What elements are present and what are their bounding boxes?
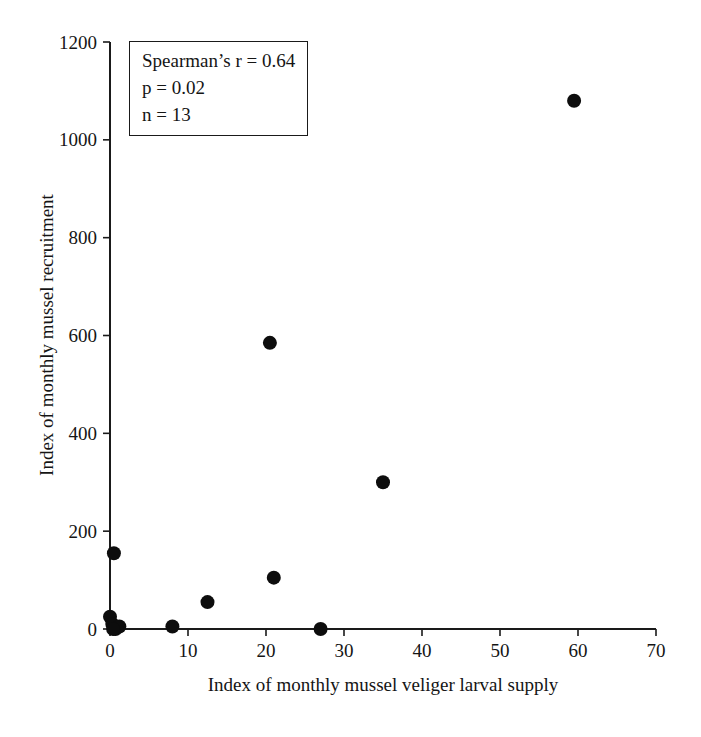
stats-annotation-box: Spearman’s r = 0.64 p = 0.02 n = 13 — [129, 41, 308, 136]
data-point — [376, 475, 390, 489]
annotation-line-n: n = 13 — [142, 101, 295, 128]
x-tick-label-20: 20 — [257, 640, 276, 661]
y-tick-label-0: 0 — [88, 619, 98, 640]
scatter-figure: 010203040506070020040060080010001200 Spe… — [0, 0, 701, 737]
data-point — [263, 336, 277, 350]
x-tick-label-30: 30 — [335, 640, 354, 661]
y-axis-title: Index of monthly mussel recruitment — [36, 194, 58, 476]
x-tick-label-40: 40 — [413, 640, 432, 661]
x-tick-label-60: 60 — [569, 640, 588, 661]
data-point — [106, 622, 120, 636]
data-point — [314, 622, 328, 636]
data-point — [201, 595, 215, 609]
annotation-line-p-value: p = 0.02 — [142, 74, 295, 101]
y-tick-label-200: 200 — [69, 521, 98, 542]
data-point — [567, 94, 581, 108]
y-tick-label-800: 800 — [69, 227, 98, 248]
x-tick-label-70: 70 — [647, 640, 666, 661]
scatter-plot-canvas: 010203040506070020040060080010001200 — [0, 0, 701, 737]
x-tick-label-50: 50 — [491, 640, 510, 661]
x-axis-title: Index of monthly mussel veliger larval s… — [110, 674, 656, 696]
data-point — [107, 546, 121, 560]
x-tick-label-0: 0 — [105, 640, 115, 661]
y-tick-label-1200: 1200 — [59, 32, 97, 53]
annotation-line-spearman-r: Spearman’s r = 0.64 — [142, 47, 295, 74]
y-tick-label-400: 400 — [69, 423, 98, 444]
x-tick-label-10: 10 — [179, 640, 198, 661]
data-point — [165, 620, 179, 634]
y-tick-label-1000: 1000 — [59, 129, 97, 150]
data-point — [267, 571, 281, 585]
y-tick-label-600: 600 — [69, 325, 98, 346]
